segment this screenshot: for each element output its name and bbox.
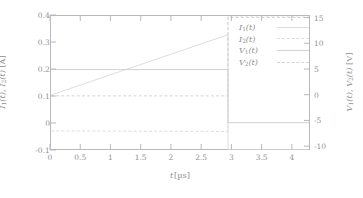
figure: I1(t), I2(t) [A] V1(t), V2(t) [V] t [µs]… [0, 0, 363, 198]
legend-label: I2(t) [239, 35, 273, 44]
legend-item[interactable]: V2(t) [239, 57, 309, 69]
legend-line-sample [277, 38, 309, 40]
legend-line-sample [277, 27, 309, 29]
legend-item[interactable]: I1(t) [239, 22, 309, 34]
legend-line-sample [277, 62, 309, 64]
legend-item[interactable]: V1(t) [239, 45, 309, 57]
legend-line-sample [277, 50, 309, 52]
legend-item[interactable]: I2(t) [239, 34, 309, 46]
legend-label: I1(t) [239, 23, 273, 32]
legend-label: V1(t) [239, 46, 273, 55]
legend-label: V2(t) [239, 58, 273, 67]
legend: I1(t)I2(t)V1(t)V2(t) [239, 22, 309, 68]
